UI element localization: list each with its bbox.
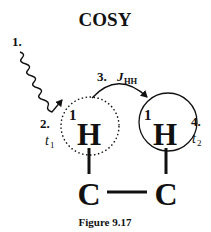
left-carbon: C (77, 176, 100, 212)
cosy-diagram: COSY 1. 3. J HH 1 H 1 H 2. t 1 4. t 2 C … (0, 0, 211, 232)
coupling-arrow (92, 84, 147, 98)
step-1-label: 1. (12, 34, 22, 49)
diagram-title: COSY (79, 9, 132, 30)
left-h-symbol: H (77, 117, 101, 152)
wavy-pulse-arrow (20, 52, 62, 112)
right-h-symbol: H (153, 117, 177, 152)
step-3-label: 3. (97, 69, 107, 84)
coupling-symbol-j: J (116, 69, 124, 84)
right-carbon: C (154, 176, 177, 212)
figure-caption: Figure 9.17 (79, 216, 132, 228)
right-h-mass-number: 1 (144, 107, 152, 123)
step-2-label: 2. (40, 116, 50, 131)
t2-subscript: 2 (197, 138, 202, 148)
step-4-label: 4. (191, 114, 201, 129)
left-h-mass-number: 1 (69, 107, 77, 123)
t1-subscript: 1 (50, 140, 55, 150)
